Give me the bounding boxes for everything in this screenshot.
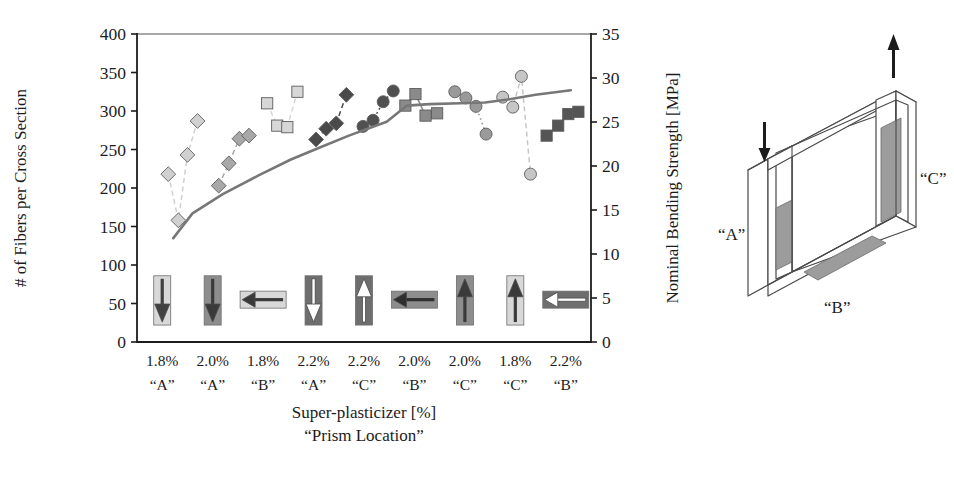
x-category-sp: 2.2% xyxy=(348,352,380,369)
x-category-labels: 1.8%“A”2.0%“A”1.8%“B”2.2%“A”2.2%“C”2.0%“… xyxy=(146,352,582,393)
x-category-loc: “B” xyxy=(402,376,426,393)
y-tick-label-right: 20 xyxy=(602,156,620,176)
data-point-marker xyxy=(180,147,195,162)
x-category-sp: 2.2% xyxy=(297,352,329,369)
y-axis-title: # of Fibers per Cross Section xyxy=(11,89,30,287)
chart-panel: 050100150200250300350400 05101520253035 … xyxy=(0,0,700,478)
y-tick-label-right: 30 xyxy=(602,68,620,88)
x-category-sp: 2.0% xyxy=(197,352,229,369)
data-point-marker xyxy=(524,168,536,180)
data-point-marker xyxy=(262,98,273,109)
y-tick-label-right: 15 xyxy=(602,200,620,220)
prism-shade-c xyxy=(881,118,901,222)
x-category-loc: “B” xyxy=(251,376,275,393)
data-point-marker xyxy=(480,128,492,140)
data-point-marker xyxy=(553,120,564,131)
data-point-marker xyxy=(161,167,176,182)
x-category-sp: 2.0% xyxy=(398,352,430,369)
prism-diagram-panel: “A” “B” “C” xyxy=(700,0,954,478)
data-point-marker xyxy=(282,122,293,133)
data-point-marker xyxy=(515,70,527,82)
x-category-loc: “A” xyxy=(301,376,326,393)
x-category-loc: “B” xyxy=(554,376,578,393)
chart-svg: 050100150200250300350400 05101520253035 … xyxy=(0,0,700,478)
y-tick-label: 250 xyxy=(100,140,127,160)
left-axis: 050100150200250300350400 xyxy=(100,24,137,352)
series-connector-line xyxy=(316,95,346,140)
data-point-marker xyxy=(387,85,399,97)
x-category-loc: “C” xyxy=(352,376,376,393)
x-category-sp: 2.0% xyxy=(449,352,481,369)
data-point-marker xyxy=(292,86,303,97)
x-category-loc: “A” xyxy=(200,376,225,393)
arrow-left-outline-icon xyxy=(543,291,589,308)
data-point-marker xyxy=(507,101,519,113)
x-axis-title-sub: “Prism Location” xyxy=(304,426,423,445)
data-point-marker xyxy=(221,156,236,171)
y-tick-label: 200 xyxy=(100,178,127,198)
y-tick-label: 150 xyxy=(100,217,127,237)
y-tick-label-right: 10 xyxy=(602,244,620,264)
x-category-loc: “C” xyxy=(453,376,477,393)
arrow-up-outline-icon xyxy=(356,276,373,325)
x-category-loc: “A” xyxy=(150,376,175,393)
data-series xyxy=(541,106,584,141)
data-series xyxy=(211,128,256,193)
data-point-marker xyxy=(449,86,461,98)
data-point-marker xyxy=(190,114,205,129)
y-tick-label: 100 xyxy=(100,255,127,275)
arrow-down-dark-icon xyxy=(204,276,221,325)
arrow-up-dark-icon xyxy=(456,276,473,325)
prism-label-b: “B” xyxy=(824,298,850,317)
y-tick-label: 350 xyxy=(100,63,127,83)
data-point-marker xyxy=(420,110,431,121)
prism-label-c: “C” xyxy=(920,169,946,188)
data-point-marker xyxy=(410,88,421,99)
data-series xyxy=(309,87,354,146)
prism-leg-a-front xyxy=(748,159,768,296)
y-axis-title-right: Nominal Bending Strength [MPa] xyxy=(663,73,682,304)
data-point-marker xyxy=(211,178,226,193)
figure-root: 050100150200250300350400 05101520253035 … xyxy=(0,0,954,478)
y-tick-label: 400 xyxy=(100,24,127,44)
prism-svg: “A” “B” “C” xyxy=(700,0,954,478)
data-point-marker xyxy=(432,108,443,119)
data-series-group xyxy=(161,70,584,227)
x-category-sp: 1.8% xyxy=(146,352,178,369)
data-series xyxy=(497,70,537,180)
prism-shade-a xyxy=(776,200,792,270)
series-connector-line xyxy=(503,76,531,174)
arrow-up-light-icon xyxy=(507,276,524,325)
data-point-marker xyxy=(541,130,552,141)
y-tick-label: 50 xyxy=(109,294,127,314)
arrow-icon-row xyxy=(154,276,589,325)
data-point-marker xyxy=(377,96,389,108)
arrow-down-light-icon xyxy=(154,276,171,325)
x-category-sp: 1.8% xyxy=(499,352,531,369)
arrow-down-outline-icon xyxy=(305,276,322,325)
data-series xyxy=(449,86,492,140)
prism-label-a: “A” xyxy=(718,225,745,244)
prism-arrow-up-icon xyxy=(888,34,900,78)
data-point-marker xyxy=(309,132,324,147)
data-point-marker xyxy=(563,108,574,119)
data-point-marker xyxy=(339,87,354,102)
y-tick-label: 300 xyxy=(100,101,127,121)
x-category-loc: “C” xyxy=(503,376,527,393)
y-tick-label-right: 25 xyxy=(602,112,620,132)
prism-geometry xyxy=(748,91,916,296)
arrow-left-dark-icon xyxy=(391,291,437,308)
right-axis: 05101520253035 xyxy=(591,24,620,352)
prism-arrow-down-icon xyxy=(759,122,771,162)
y-tick-label-right: 35 xyxy=(602,24,620,44)
data-point-marker xyxy=(573,106,584,117)
data-series xyxy=(262,86,303,133)
x-category-sp: 1.8% xyxy=(247,352,279,369)
prism-shade-b xyxy=(804,236,886,280)
arrow-left-light-icon xyxy=(240,291,286,308)
y-tick-label-right: 0 xyxy=(602,332,611,352)
data-point-marker xyxy=(272,120,283,131)
x-category-sp: 2.2% xyxy=(550,352,582,369)
y-tick-label-right: 5 xyxy=(602,288,611,308)
y-tick-label: 0 xyxy=(117,332,126,352)
